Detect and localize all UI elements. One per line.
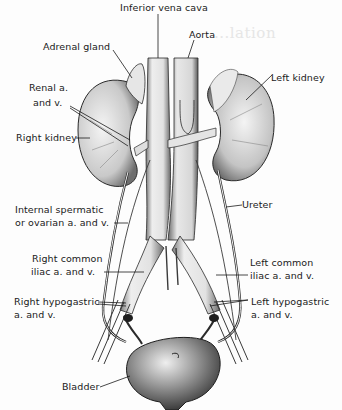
left-kidney-shape [208, 69, 274, 180]
label-renal-line2: and v. [33, 97, 62, 109]
label-right-common-iliac-line2: iliac a. and v. [31, 266, 95, 278]
label-left-kidney: Left kidney [271, 72, 325, 84]
label-spermatic-line2: or ovarian a. and v. [15, 217, 109, 229]
label-right-common-iliac-line1: Right common [32, 253, 103, 265]
label-right-kidney: Right kidney [16, 132, 77, 144]
aorta-shape [168, 58, 198, 240]
label-left-hypogastric-line2: a. and v. [251, 309, 293, 321]
label-left-common-iliac-line1: Left common [250, 257, 313, 269]
inferior-vena-cava-shape [146, 58, 171, 240]
label-left-common-iliac-line2: iliac a. and v. [250, 270, 314, 282]
left-common-iliac-shape [172, 236, 220, 314]
bladder-shape [127, 337, 221, 410]
label-right-hypogastric-line1: Right hypogastric [14, 296, 100, 308]
label-adrenal-gland: Adrenal gland [43, 41, 110, 53]
label-spermatic-line1: Internal spermatic [15, 204, 104, 216]
label-ureter: Ureter [242, 199, 273, 211]
label-renal-line1: Renal a. [29, 82, 68, 94]
label-inferior-vena-cava: Inferior vena cava [120, 2, 208, 14]
anatomy-figure: ...lation [0, 0, 342, 410]
label-left-hypogastric-line1: Left hypogastric [251, 296, 329, 308]
label-bladder: Bladder [62, 381, 100, 393]
label-right-hypogastric-line2: a. and v. [14, 309, 56, 321]
label-aorta: Aorta [189, 29, 215, 41]
right-common-iliac-shape [120, 236, 164, 314]
